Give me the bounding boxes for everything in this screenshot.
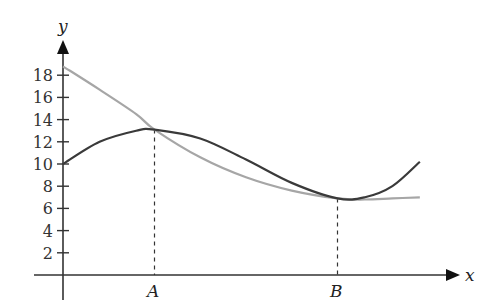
- y-tick-label: 2: [43, 244, 53, 263]
- y-tick-label: 4: [43, 222, 53, 241]
- y-tick-label: 18: [33, 66, 53, 85]
- y-tick-label: 6: [43, 199, 53, 218]
- y-tick-label: 14: [33, 111, 53, 130]
- dark-curve: [63, 129, 420, 200]
- y-axis-arrow-icon: [57, 40, 69, 54]
- gray-curve: [63, 66, 420, 199]
- y-tick-label: 8: [43, 177, 53, 196]
- chart: x y 24681012141618 A B: [0, 0, 487, 307]
- point-a-label: A: [145, 281, 159, 301]
- y-tick-label: 10: [33, 155, 53, 174]
- point-b-label: B: [329, 281, 343, 301]
- y-tick-label: 16: [33, 88, 53, 107]
- y-tick-label: 12: [33, 133, 53, 152]
- y-axis-label: y: [57, 16, 68, 36]
- x-axis-label: x: [465, 265, 475, 285]
- x-axis-arrow-icon: [446, 269, 460, 281]
